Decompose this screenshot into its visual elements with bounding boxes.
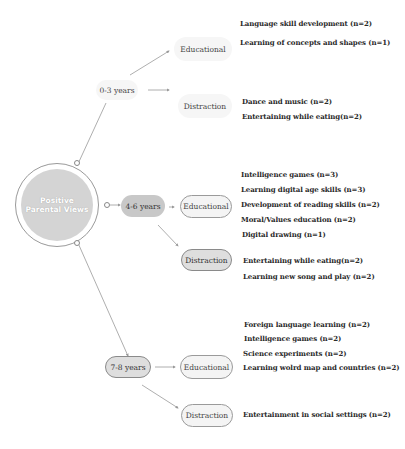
leaf-item: Learning new song and play (n=2)	[243, 272, 375, 281]
leaf-item: Learning digital age skills (n=3)	[241, 185, 365, 194]
age-node-0-3: 0-3 years	[96, 80, 138, 100]
leaf-item: Intelligence games (n=3)	[241, 170, 338, 179]
leaf-item: Language skill development (n=2)	[240, 19, 372, 28]
leaf-item: Science experiments (n=2)	[243, 349, 347, 358]
connector-knob-bottom	[74, 240, 80, 246]
root-node: Positive Parental Views	[21, 169, 93, 241]
leaf-item: Learning of concepts and shapes (n=1)	[240, 38, 390, 47]
category-node-distraction-7-8: Distraction	[181, 404, 233, 427]
leaf-item: Intelligence games (n=2)	[244, 334, 341, 343]
leaf-item: Entertainment in social settings (n=2)	[243, 410, 391, 419]
root-label-line1: Positive	[40, 196, 74, 205]
leaf-item: Dance and music (n=2)	[242, 97, 332, 106]
connector-knob-top	[74, 160, 80, 166]
leaf-item: Entertaining while eating(n=2)	[243, 256, 363, 265]
connector-knob-right	[104, 202, 110, 208]
category-node-distraction-0-3: Distraction	[178, 94, 232, 118]
root-label-line2: Parental Views	[25, 205, 88, 214]
category-node-educational-0-3: Educational	[174, 37, 232, 61]
category-node-educational-7-8: Educational	[180, 355, 233, 379]
leaf-item: Moral/Values education (n=2)	[241, 215, 356, 224]
category-node-distraction-4-6: Distraction	[181, 249, 232, 271]
age-node-4-6: 4-6 years	[121, 195, 165, 217]
category-node-educational-4-6: Educational	[180, 195, 232, 218]
leaf-item: Entertaining while eating(n=2)	[242, 112, 362, 121]
leaf-item: Digital drawing (n=1)	[242, 230, 326, 239]
leaf-item: Learning wolrd map and countries (n=2)	[243, 363, 400, 372]
leaf-item: Foreign language learning (n=2)	[244, 320, 370, 329]
leaf-item: Development of reading skills (n=2)	[241, 200, 380, 209]
age-node-7-8: 7-8 years	[105, 356, 151, 378]
